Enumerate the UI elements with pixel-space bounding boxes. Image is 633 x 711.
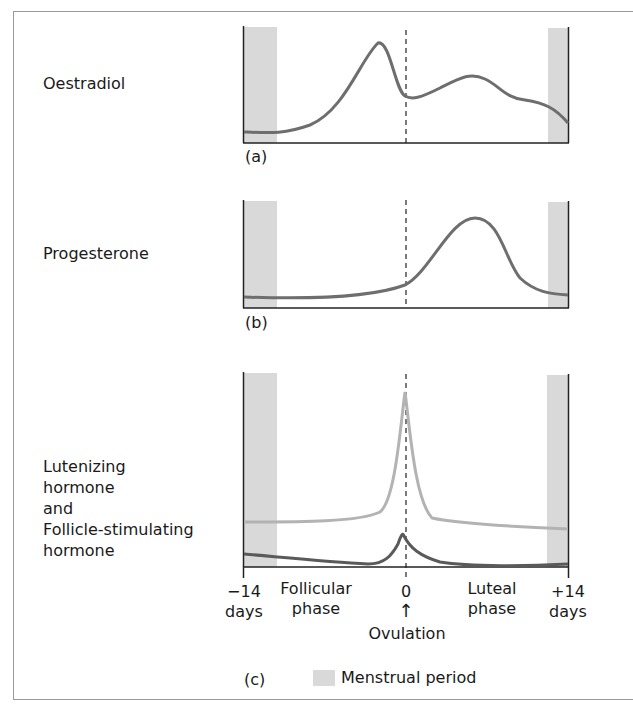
tick-minus-14-value: −14 (222, 582, 266, 602)
follicular-line-2: phase (276, 599, 356, 619)
lh-line-3: and (43, 498, 194, 519)
luteal-line-2: phase (452, 599, 532, 619)
label-lh-fsh: Lutenizing hormone and Follicle-stimulat… (43, 456, 194, 561)
lh-line-1: Lutenizing (43, 456, 194, 477)
menstrual-shade-right (548, 28, 568, 143)
phase-luteal: Luteal phase (452, 579, 532, 619)
tick-plus-14: +14 days (546, 582, 590, 622)
luteal-line-1: Luteal (452, 579, 532, 599)
label-progesterone: Progesterone (43, 243, 149, 264)
tick-plus-14-value: +14 (546, 582, 590, 602)
menstrual-period-swatch (313, 670, 335, 686)
lh-curve (244, 392, 568, 529)
panel-a-chart (243, 26, 569, 143)
follicular-line-1: Follicular (276, 579, 356, 599)
label-oestradiol: Oestradiol (43, 73, 125, 94)
lh-line-5: hormone (43, 540, 194, 561)
tick-zero: 0 (396, 582, 416, 602)
menstrual-shade-right (547, 375, 568, 567)
panel-label-a: (a) (245, 147, 267, 166)
lh-line-4: Follicle-stimulating (43, 519, 194, 540)
tick-minus-14: −14 days (222, 582, 266, 622)
panel-label-c: (c) (244, 670, 265, 689)
legend-menstrual-period: Menstrual period (341, 668, 476, 687)
panel-c-chart (243, 372, 569, 578)
tick-plus-14-unit: days (546, 602, 590, 622)
menstrual-shade-left (244, 373, 277, 567)
menstrual-shade-left (244, 201, 277, 308)
panel-b-chart (243, 200, 569, 308)
menstrual-shade-left (244, 27, 277, 143)
tick-minus-14-unit: days (222, 602, 266, 622)
panel-label-b: (b) (245, 313, 268, 332)
phase-follicular: Follicular phase (276, 579, 356, 619)
arrow-up-icon: ↑ (396, 601, 416, 621)
ovulation-label: Ovulation (360, 624, 454, 644)
lh-line-2: hormone (43, 477, 194, 498)
